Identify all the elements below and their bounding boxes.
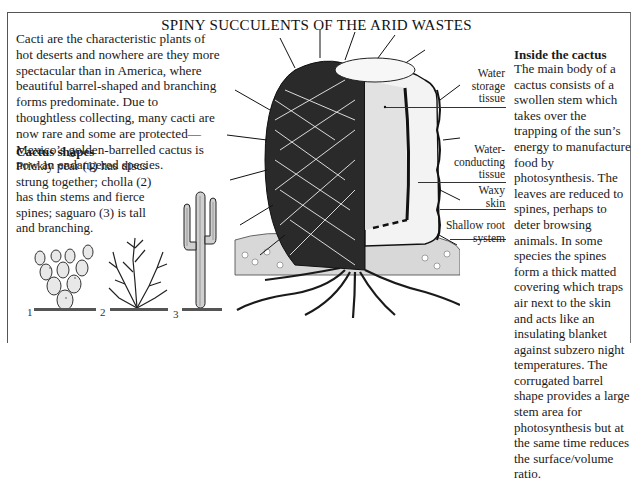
inside-cactus-text: The main body of a cactus consists of a … bbox=[514, 61, 632, 482]
barrel-cactus-cross-section bbox=[225, 30, 460, 320]
figure-number-3: 3 bbox=[173, 308, 179, 320]
prickly-pear-illustration bbox=[30, 238, 100, 310]
label-waxy-skin: Waxy skin bbox=[465, 184, 505, 209]
saguaro-illustration bbox=[178, 188, 223, 310]
cactus-shapes-text: Prickly pear (1) has discs strung togeth… bbox=[16, 158, 166, 236]
figure-number-1: 1 bbox=[27, 306, 33, 318]
leader-line-water-conducting bbox=[418, 182, 506, 183]
figure-number-2: 2 bbox=[100, 306, 106, 318]
label-water-conducting-tissue: Water-conducting tissue bbox=[440, 143, 505, 181]
cholla-illustration bbox=[105, 232, 170, 310]
ground-line-1 bbox=[34, 306, 96, 312]
label-water-storage-tissue: Water storage tissue bbox=[455, 67, 505, 105]
ground-line-3 bbox=[182, 306, 222, 312]
leader-line-waxy-skin bbox=[440, 209, 506, 210]
ground-line-2 bbox=[110, 306, 168, 312]
label-shallow-root-system: Shallow root system bbox=[440, 219, 505, 244]
leader-line-water-storage bbox=[386, 107, 506, 108]
